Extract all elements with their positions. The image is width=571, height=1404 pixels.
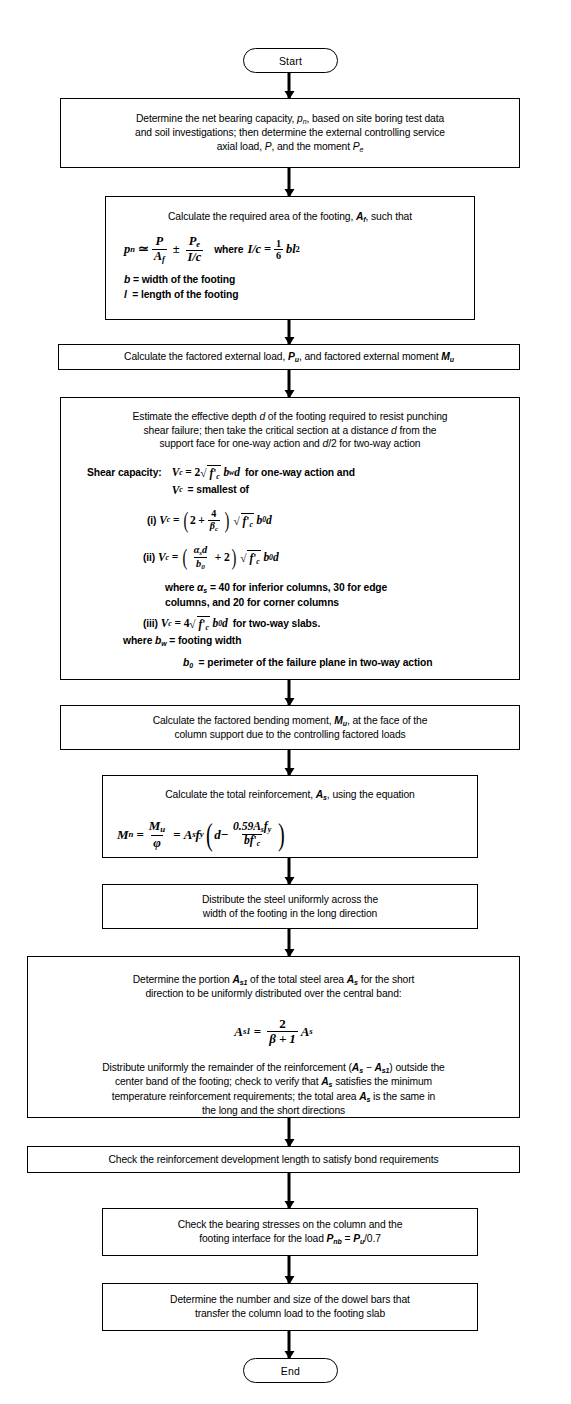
definition-l: l = length of the footing — [124, 288, 238, 303]
node-check-bearing-stresses: Check the bearing stresses on the column… — [102, 1208, 478, 1256]
node-calculate-required-area: Calculate the required area of the footi… — [105, 196, 475, 320]
shear-eq-one-way: Vc = 2 √f'c bwd for one-way action and — [172, 464, 355, 482]
node-lead-text: Calculate the total reinforcement, As, u… — [159, 788, 421, 802]
definition-b: b = width of the footing — [124, 273, 238, 288]
node-line: column support due to the controlling fa… — [168, 728, 411, 742]
start-label: Start — [279, 55, 302, 67]
node-calculate-bending-moment: Calculate the factored bending moment, M… — [60, 705, 520, 750]
node-line: transfer the column load to the footing … — [189, 1307, 391, 1321]
node-line: Determine the number and size of the dow… — [164, 1293, 416, 1307]
node-line: Distribute uniformly the remainder of th… — [102, 1061, 444, 1075]
flowchart-terminator-end: End — [243, 1358, 338, 1383]
connector-box4-to-box5 — [288, 680, 291, 705]
node-line: and soil investigations; then determine … — [129, 126, 451, 140]
shear-eq-smallest: Vc = smallest of — [172, 483, 355, 498]
node-calculate-total-reinforcement: Calculate the total reinforcement, As, u… — [102, 775, 478, 858]
flowchart-terminator-start: Start — [243, 48, 338, 73]
node-line: Determine the portion As1 of the total s… — [127, 973, 421, 987]
node-line: width of the footing in the long directi… — [197, 907, 383, 921]
node-line: center band of the footing; check to ver… — [102, 1075, 444, 1089]
connector-box3-to-box4 — [288, 370, 291, 397]
shear-capacity-block: Shear capacity: Vc = 2 √f'c bwd for one-… — [61, 464, 519, 498]
connector-box9-to-box10 — [288, 1173, 291, 1208]
connector-box11-to-end — [288, 1331, 291, 1358]
shear-capacity-label: Shear capacity: — [87, 464, 162, 480]
node-line: Check the reinforcement development leng… — [102, 1153, 444, 1167]
flowchart-canvas: Start Determine the net bearing capacity… — [0, 0, 571, 1404]
where-b0-note: b0 = perimeter of the failure plane in t… — [61, 656, 519, 670]
node-line: the long and the short directions — [102, 1104, 444, 1118]
definitions-list: b = width of the footing l = length of t… — [106, 273, 238, 303]
equation-total-reinforcement: Mn = Muφ = Asfy (d − 0.59Asfybf'c ) — [103, 813, 287, 856]
shear-eq-iii: (iii) Vc = 4 √f'c b0d for two-way slabs. — [61, 615, 519, 633]
node-line: shear failure; then take the critical se… — [138, 424, 443, 438]
connector-box7-to-box8 — [288, 929, 291, 956]
node-line: axial load, P, and the moment Pe — [211, 140, 370, 154]
equation-required-area: pn ≃ PAf ± PeI/c where I/c = 16 bl2 — [106, 235, 300, 264]
node-line: Calculate the factored external load, Pu… — [118, 350, 460, 364]
node-lead-text: Calculate the required area of the footi… — [160, 210, 420, 224]
node-line: temperature reinforcement requirements; … — [102, 1090, 444, 1104]
node-line: Distribute the steel uniformly across th… — [196, 893, 384, 907]
node-determine-net-bearing-capacity: Determine the net bearing capacity, pn, … — [60, 98, 520, 168]
node-calculate-factored-load: Calculate the factored external load, Pu… — [58, 344, 520, 370]
equation-as1: As1 = 2β + 1 As — [234, 1017, 312, 1046]
node-determine-dowel-bars: Determine the number and size of the dow… — [102, 1283, 478, 1331]
where-bw-note: where bw = footing width — [61, 634, 519, 648]
node-line: direction to be uniformly distributed ov… — [139, 987, 407, 1001]
connector-box10-to-box11 — [288, 1256, 291, 1283]
node-line: Determine the net bearing capacity, pn, … — [130, 112, 450, 126]
shear-eq-i: (i) Vc = (2 + 4βc ) √f'c b0d — [61, 505, 519, 536]
shear-eq-ii: (ii) Vc = ( αsdb0 + 2) √f'c b0d — [61, 542, 519, 573]
tail-paragraph: Distribute uniformly the remainder of th… — [94, 1061, 452, 1118]
connector-box1-to-box2 — [288, 168, 291, 196]
connector-box8-to-box9 — [288, 1118, 291, 1146]
node-line: Estimate the effective depth d of the fo… — [127, 410, 454, 424]
end-label: End — [281, 1365, 300, 1377]
node-line: Calculate the factored bending moment, M… — [147, 714, 434, 728]
connector-start-to-box1 — [288, 73, 291, 98]
node-line: Check the bearing stresses on the column… — [172, 1218, 409, 1232]
node-line: footing interface for the load Pnb = Pu/… — [193, 1232, 387, 1246]
node-check-development-length: Check the reinforcement development leng… — [27, 1146, 520, 1173]
node-estimate-effective-depth: Estimate the effective depth d of the fo… — [60, 397, 520, 680]
alpha-s-note: where αs = 40 for inferior columns, 30 f… — [61, 581, 519, 611]
node-distribute-steel-uniformly: Distribute the steel uniformly across th… — [102, 884, 478, 929]
connector-box5-to-box6 — [288, 750, 291, 775]
node-determine-portion-as1: Determine the portion As1 of the total s… — [27, 956, 520, 1118]
connector-box2-to-box3 — [288, 320, 291, 344]
alpha-note-line: columns, and 20 for corner columns — [165, 596, 519, 611]
node-line: support face for one-way action and d/2 … — [154, 437, 427, 451]
alpha-note-line: where αs = 40 for inferior columns, 30 f… — [165, 581, 519, 596]
connector-box6-to-box7 — [288, 858, 291, 884]
